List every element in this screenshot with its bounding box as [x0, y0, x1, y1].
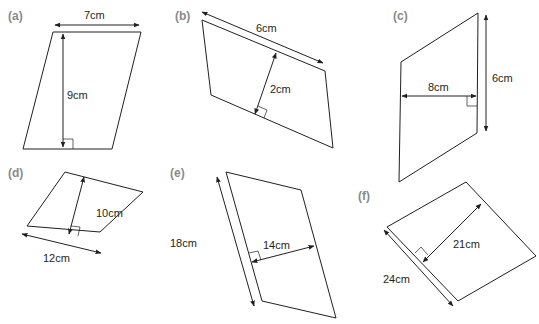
figure-a: (a) 7cm 9cm — [8, 9, 141, 149]
parallelogram-c — [399, 13, 478, 182]
base-label-d: 12cm — [43, 252, 70, 264]
base-label-a: 7cm — [84, 9, 105, 21]
height-label-f: 21cm — [453, 238, 480, 250]
base-arrow-f — [384, 230, 453, 306]
height-label-c: 8cm — [428, 81, 449, 93]
right-angle-mark-c — [467, 96, 477, 106]
base-arrow-b — [202, 12, 323, 63]
height-label-b: 2cm — [270, 83, 291, 95]
figure-f: (f) 24cm 21cm — [358, 182, 536, 306]
part-label-d: (d) — [8, 166, 23, 180]
part-label-a: (a) — [8, 9, 23, 23]
figure-c: (c) 6cm 8cm — [393, 9, 513, 182]
parallelogram-diagrams: (a) 7cm 9cm (b) 6cm 2cm (c) 6cm 8cm (d) … — [0, 0, 539, 324]
height-arrow-f — [423, 204, 481, 262]
base-label-e: 18cm — [170, 237, 197, 249]
height-label-d: 10cm — [96, 207, 123, 219]
right-angle-mark-a — [63, 139, 73, 149]
figure-d: (d) 12cm 10cm — [8, 166, 143, 264]
height-arrow-d — [69, 177, 84, 234]
part-label-c: (c) — [393, 9, 408, 23]
part-label-e: (e) — [170, 166, 185, 180]
figure-e: (e) 18cm 14cm — [170, 166, 336, 318]
right-angle-mark-d — [71, 226, 80, 236]
height-label-e: 14cm — [263, 239, 290, 251]
right-angle-mark-f — [415, 247, 428, 255]
base-arrow-d — [22, 234, 101, 253]
base-label-c: 6cm — [492, 72, 513, 84]
figure-b: (b) 6cm 2cm — [175, 9, 333, 148]
part-label-f: (f) — [358, 189, 370, 203]
base-arrow-e — [217, 177, 254, 306]
height-label-a: 9cm — [67, 89, 88, 101]
parallelogram-d — [27, 172, 143, 232]
part-label-b: (b) — [175, 9, 190, 23]
right-angle-mark-e — [249, 251, 261, 260]
base-label-b: 6cm — [256, 22, 277, 34]
base-label-f: 24cm — [383, 273, 410, 285]
